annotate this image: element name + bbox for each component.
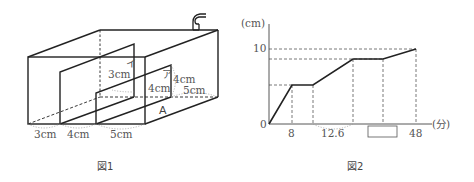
y-tick-10: 10 (253, 42, 266, 54)
region-a-label: A (159, 104, 167, 117)
figure2-caption: 図2 (347, 161, 363, 172)
blank-answer-box[interactable] (368, 126, 397, 137)
origin-label: 0 (260, 118, 267, 130)
bottom-right-edge (145, 97, 218, 124)
hidden-bottom-diagonal (28, 97, 100, 124)
partition-i (60, 44, 134, 124)
partition-a-label: ア (162, 68, 172, 80)
partition-i-base (60, 97, 134, 124)
figure2-graph (269, 24, 432, 137)
dim-partition-i-height: 3cm (108, 68, 131, 80)
dim-bottom-3: 5cm (110, 128, 133, 140)
x-axis-unit: (分) (432, 118, 450, 130)
top-right-edge (145, 30, 218, 57)
top-left-edge (28, 30, 100, 57)
dim-partition-a-height-inner: 4cm (148, 82, 171, 94)
faucet-icon (193, 14, 206, 30)
dim-bottom-1: 3cm (34, 128, 57, 140)
water-level-line (269, 49, 416, 124)
x-tick-8: 8 (288, 127, 295, 139)
dim-bottom-2: 4cm (67, 128, 90, 140)
x-tick-12-6: 12.6 (321, 127, 345, 139)
y-axis-unit: (cm) (241, 17, 265, 29)
figure1-caption: 図1 (97, 161, 113, 172)
figures-canvas: イ 3cm ア 4cm 4cm 5cm A 3cm 4cm 5cm 図1 (cm… (0, 0, 474, 182)
x-tick-48: 48 (409, 127, 422, 139)
dim-right-gap: 5cm (183, 84, 206, 96)
